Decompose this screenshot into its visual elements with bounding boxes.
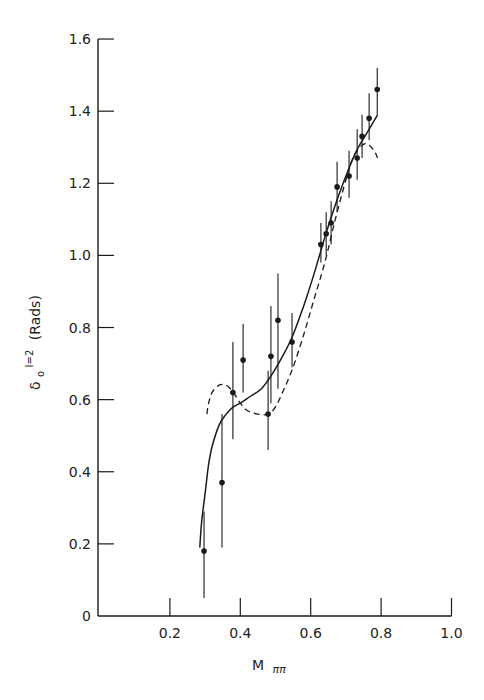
y-tick-label: 1.4 bbox=[69, 103, 91, 119]
x-tick-label: 0.8 bbox=[370, 625, 392, 641]
chart-figure: 00.20.40.60.81.01.21.41.60.20.40.60.81.0… bbox=[0, 0, 484, 700]
data-point bbox=[359, 115, 365, 158]
data-point bbox=[346, 151, 352, 198]
point-marker bbox=[366, 116, 372, 122]
solid-fit-curve bbox=[200, 115, 378, 548]
y-tick-label: 0.6 bbox=[69, 392, 91, 408]
data-point bbox=[240, 324, 246, 393]
data-point bbox=[230, 342, 236, 439]
x-axis-label: M ππ bbox=[252, 657, 286, 676]
point-marker bbox=[230, 390, 236, 396]
y-axis-label: δ o I=2 (Rads) bbox=[20, 295, 47, 390]
point-marker bbox=[346, 173, 352, 179]
point-marker bbox=[374, 87, 380, 93]
y-tick-label: 1.2 bbox=[69, 175, 91, 191]
point-marker bbox=[328, 220, 334, 226]
data-points bbox=[201, 68, 380, 598]
data-point bbox=[374, 68, 380, 115]
axis-labels: M ππ δ o I=2 (Rads) bbox=[20, 295, 286, 676]
axes bbox=[98, 39, 452, 616]
x-tick-label: 0.4 bbox=[229, 625, 251, 641]
data-point bbox=[328, 201, 334, 244]
point-marker bbox=[318, 242, 324, 248]
axis-ticks: 00.20.40.60.81.01.21.41.60.20.40.60.81.0 bbox=[69, 31, 463, 641]
point-marker bbox=[334, 184, 340, 190]
x-tick-label: 0.2 bbox=[159, 625, 181, 641]
y-tick-label: 1.6 bbox=[69, 31, 91, 47]
y-tick-label: 0.2 bbox=[69, 536, 91, 552]
point-marker bbox=[240, 357, 246, 363]
y-tick-label: 0.4 bbox=[69, 464, 91, 480]
y-tick-label: 1.0 bbox=[69, 247, 91, 263]
point-marker bbox=[201, 548, 207, 554]
point-marker bbox=[219, 480, 225, 486]
point-marker bbox=[354, 155, 360, 161]
point-marker bbox=[265, 411, 271, 417]
point-marker bbox=[268, 354, 274, 360]
svg-text:δ o I=2: δ o I=2 (Rads) bbox=[20, 295, 47, 390]
data-point bbox=[275, 273, 281, 388]
point-marker bbox=[323, 231, 329, 237]
data-point bbox=[289, 313, 295, 367]
point-marker bbox=[289, 339, 295, 345]
y-tick-label: 0 bbox=[82, 608, 91, 624]
x-tick-label: 1.0 bbox=[440, 625, 462, 641]
fit-curves bbox=[200, 115, 378, 548]
data-point bbox=[219, 414, 225, 547]
point-marker bbox=[275, 318, 281, 324]
y-tick-label: 0.8 bbox=[69, 320, 91, 336]
x-tick-label: 0.6 bbox=[300, 625, 322, 641]
point-marker bbox=[359, 134, 365, 140]
data-point bbox=[268, 306, 274, 403]
